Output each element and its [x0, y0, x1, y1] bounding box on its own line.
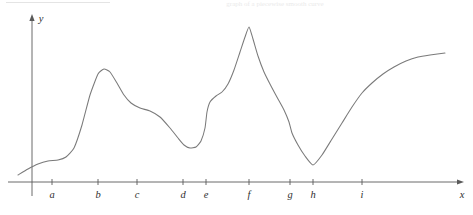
x-tick-label-c: c [135, 189, 140, 200]
axes-group [8, 14, 464, 196]
x-tick-label-f: f [248, 189, 253, 200]
x-tick-label-e: e [204, 189, 209, 200]
x-axis-arrowhead [457, 179, 464, 184]
y-axis-label: y [38, 13, 44, 24]
figure-container: graph of a piecewise smooth curve abcdef… [0, 0, 473, 215]
graph-svg: abcdefghi x y [0, 0, 473, 215]
curve-group [18, 27, 445, 175]
y-axis-arrowhead [29, 14, 34, 21]
x-tick-label-i: i [361, 189, 364, 200]
function-curve [18, 27, 445, 175]
x-tick-label-b: b [95, 189, 100, 200]
axis-labels-group: x y [38, 13, 465, 200]
x-tick-label-h: h [310, 189, 315, 200]
x-tick-label-a: a [49, 189, 54, 200]
x-axis-label: x [459, 189, 465, 200]
x-tick-label-d: d [180, 189, 186, 200]
x-tick-label-g: g [287, 189, 292, 200]
